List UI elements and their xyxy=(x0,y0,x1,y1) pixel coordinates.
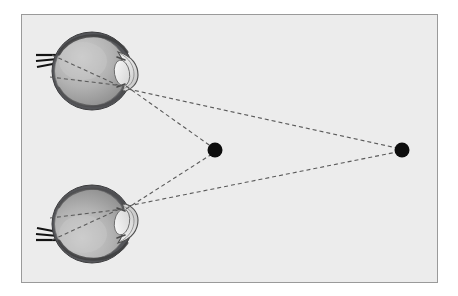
lower-eye-to-near-point xyxy=(126,154,212,209)
upper-eyeball xyxy=(52,32,138,110)
lower-eye-to-far-point xyxy=(128,152,397,206)
upper-eye-to-far-point xyxy=(128,89,397,148)
upper-eye-to-near-point xyxy=(126,86,212,147)
near-point-dot xyxy=(208,143,223,158)
binocular-convergence-diagram xyxy=(0,0,458,296)
far-point-dot xyxy=(395,143,410,158)
lower-eyeball xyxy=(52,185,138,263)
figure-root: Binocular convergence of two eyes on a n… xyxy=(0,0,458,296)
